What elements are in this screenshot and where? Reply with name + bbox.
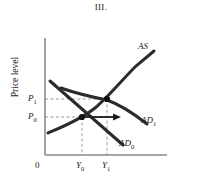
ad1-curve-label-base: AD — [141, 115, 153, 125]
y-tick-p0-sub: 0 — [34, 116, 37, 123]
origin-label: 0 — [35, 160, 40, 170]
y-tick-p0: P0 — [28, 111, 37, 123]
ad0-curve-label-base: AD — [119, 138, 131, 148]
equilibrium-point-initial — [79, 114, 85, 120]
ad1-curve-label: AD1 — [141, 115, 156, 127]
shift-arrow-head — [113, 114, 121, 121]
x-tick-y0: Y0 — [76, 160, 84, 172]
as-curve-label-base: AS — [138, 41, 148, 51]
x-tick-y1: Y1 — [102, 160, 110, 172]
ad1-curve — [61, 88, 147, 124]
ad0-curve-label-sub: 0 — [131, 143, 134, 150]
x-tick-y1-sub: 1 — [107, 165, 110, 172]
y-tick-p1-sub: 1 — [34, 98, 37, 105]
figure-canvas: III. Price level P1 — [0, 0, 202, 184]
ad-as-diagram — [0, 0, 202, 184]
as-curve-label: AS — [138, 41, 148, 53]
x-tick-y0-sub: 0 — [81, 165, 84, 172]
ad1-curve-label-sub: 1 — [153, 120, 156, 127]
ad0-curve-label: AD0 — [119, 138, 134, 150]
y-tick-p1: P1 — [28, 93, 37, 105]
equilibrium-point-new — [104, 96, 110, 102]
